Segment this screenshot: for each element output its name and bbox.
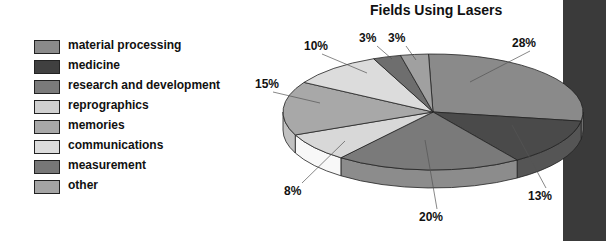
slice-percent-label: 8% — [284, 184, 302, 198]
slice-percent-label: 3% — [388, 31, 406, 45]
slice-percent-label: 3% — [359, 31, 377, 45]
slice-percent-label: 13% — [528, 189, 552, 203]
pie-slice-material-processing — [429, 54, 583, 121]
pie-top — [283, 54, 583, 170]
pie-chart: 28%13%20%8%15%10%3%3% — [0, 0, 606, 241]
slice-percent-label: 15% — [255, 77, 279, 91]
slice-percent-label: 28% — [512, 36, 536, 50]
slice-percent-label: 20% — [419, 210, 443, 224]
slice-percent-label: 10% — [304, 39, 328, 53]
